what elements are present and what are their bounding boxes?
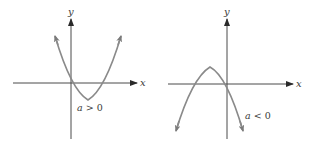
y-axis-label-left: y	[67, 6, 74, 17]
x-axis-label-right: x	[296, 78, 302, 89]
parabola-curve-up	[55, 36, 121, 100]
condition-label-right: a < 0	[245, 110, 271, 121]
parabola-curve-down	[176, 67, 243, 131]
y-axis-label-right: y	[223, 6, 230, 17]
curve-arrow-right-end	[118, 36, 121, 45]
x-axis-label-left: x	[140, 77, 146, 88]
condition-label-left: a > 0	[77, 102, 103, 113]
curve-arrow-left-end	[176, 121, 179, 131]
panel-left-upward-parabola: x y a > 0	[13, 6, 146, 139]
panel-right-downward-parabola: x y a < 0	[168, 6, 302, 139]
curve-arrow-right-end	[240, 121, 243, 131]
parabola-figure: x y a > 0 x y a < 0	[0, 0, 309, 148]
curve-arrow-left-end	[55, 36, 58, 45]
